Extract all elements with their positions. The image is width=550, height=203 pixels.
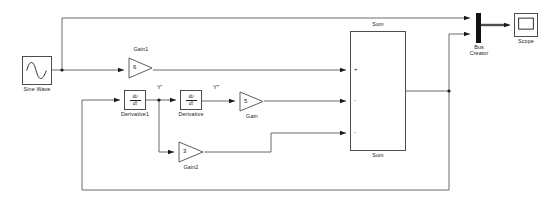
block-label-derivative: Derivative <box>163 111 219 117</box>
block-label-gain: Gain <box>222 113 282 119</box>
scope-icon <box>515 14 537 36</box>
gain-value: 5 <box>244 98 247 104</box>
block-bus-creator[interactable] <box>476 13 481 43</box>
triangle-gain-icon <box>239 91 264 112</box>
derivative-icon: du dt <box>181 91 201 109</box>
block-label-sine-wave: Sine Wave <box>7 86 67 92</box>
block-label-gain2: Gain2 <box>161 164 221 170</box>
sum-port-sign-3: - <box>354 129 356 135</box>
block-gain[interactable]: 5 <box>239 91 264 112</box>
gain2-value: 3 <box>183 148 186 154</box>
block-gain1[interactable]: 6 <box>128 57 153 79</box>
block-label-gain1: Gain1 <box>111 46 171 52</box>
triangle-gain-icon <box>178 141 204 163</box>
signal-wires <box>0 0 550 203</box>
block-label-derivative1: Derivative1 <box>107 111 163 117</box>
derivative-denominator: dt <box>189 101 193 106</box>
block-derivative[interactable]: du dt <box>180 90 202 110</box>
block-derivative1[interactable]: du dt <box>124 90 146 110</box>
block-label-sum-bottom: Sum <box>348 152 408 158</box>
signal-label-y-prime: Y′ <box>157 84 162 90</box>
sum-port-sign-1: + <box>354 66 358 72</box>
sum-port-sign-2: - <box>354 97 356 103</box>
derivative1-icon: du dt <box>125 91 145 109</box>
sine-wave-icon <box>23 57 51 84</box>
simulink-diagram-canvas: Sine Wave 6 Gain1 du dt Derivative1 du d… <box>0 0 550 203</box>
triangle-gain-icon <box>128 57 153 79</box>
block-label-scope: Scope <box>501 38 550 44</box>
block-label-sum-top: Sum <box>348 21 408 27</box>
signal-label-y-double-prime: Y″ <box>213 84 219 90</box>
gain1-value: 6 <box>133 64 136 70</box>
block-gain2[interactable]: 3 <box>178 141 204 163</box>
block-sum[interactable] <box>350 31 406 151</box>
derivative1-numerator: du <box>132 94 137 99</box>
block-sine-wave[interactable] <box>22 56 52 85</box>
bus-creator-icon <box>476 13 481 43</box>
derivative1-denominator: dt <box>133 101 137 106</box>
block-scope[interactable] <box>514 13 538 37</box>
derivative-numerator: du <box>188 94 193 99</box>
block-label-bus-creator-line2: Creator <box>456 50 502 56</box>
